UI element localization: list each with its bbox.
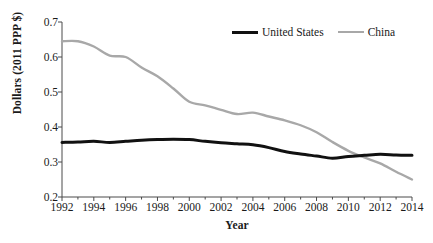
- x-axis-tick-labels: 1992199419961998200020022004200620082010…: [0, 201, 433, 217]
- legend-label: United States: [262, 26, 324, 39]
- legend-label: China: [368, 26, 395, 39]
- series-line-china: [62, 41, 412, 180]
- x-tick-label: 2014: [389, 201, 433, 213]
- legend-entry: United States: [232, 26, 324, 39]
- chart-figure: Dollars (2011 PPP $) 0.20.30.40.50.60.7 …: [0, 0, 433, 243]
- series-line-united-states: [62, 139, 412, 158]
- legend-swatch-icon: [232, 31, 258, 34]
- chart-legend: United StatesChina: [232, 24, 395, 40]
- legend-swatch-icon: [338, 31, 364, 33]
- legend-entry: China: [338, 26, 395, 39]
- x-axis-title: Year: [62, 219, 412, 231]
